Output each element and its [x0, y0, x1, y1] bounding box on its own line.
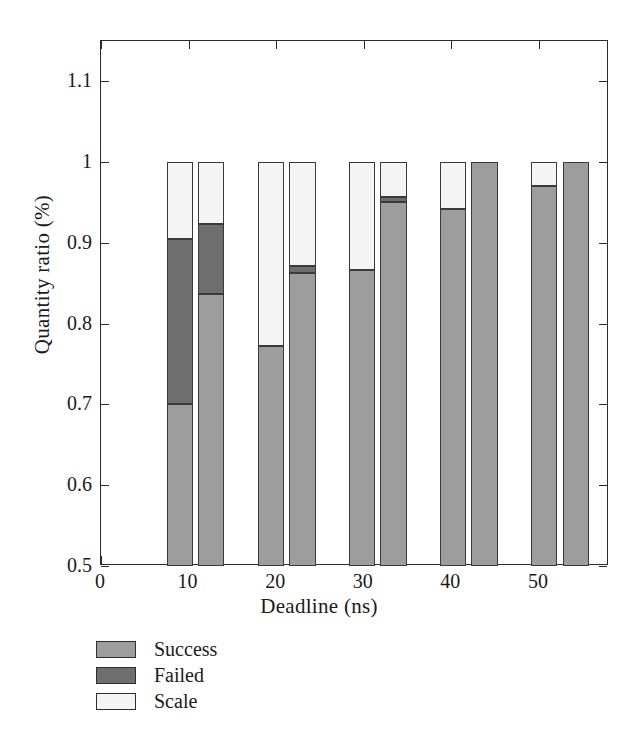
y-axis-title: Quantity ratio (%) — [30, 145, 55, 405]
bar-segment-failed — [380, 197, 406, 202]
legend-label-success: Success — [154, 639, 217, 659]
y-axis-tick-label: 0.7 — [30, 393, 92, 413]
x-axis-tick-label: 10 — [163, 571, 213, 591]
y-axis-tick — [101, 485, 109, 486]
chart-legend: SuccessFailedScale — [96, 636, 356, 714]
legend-swatch-success — [96, 641, 136, 658]
y-axis-tick-label: 0.8 — [30, 313, 92, 333]
bar-segment-success — [167, 404, 193, 566]
y-axis-tick-label: 1.1 — [30, 70, 92, 90]
bar-50-0 — [531, 41, 557, 566]
y-axis-tick — [101, 404, 109, 405]
x-axis-tick-label: 40 — [425, 571, 475, 591]
legend-label-scale: Scale — [154, 691, 197, 711]
x-axis-tick-label: 30 — [338, 571, 388, 591]
bar-segment-success — [349, 270, 375, 566]
bar-20-0 — [258, 41, 284, 566]
plot-area — [100, 40, 608, 565]
y-axis-tick-right — [599, 566, 607, 567]
bar-segment-failed — [167, 239, 193, 405]
x-axis-tick — [101, 556, 102, 564]
x-axis-tick-label: 20 — [250, 571, 300, 591]
x-axis-tick-label: 0 — [75, 571, 125, 591]
y-axis-tick — [101, 324, 109, 325]
bar-40-1 — [471, 41, 497, 566]
bar-segment-scale — [198, 162, 224, 223]
y-axis-tick — [101, 566, 109, 567]
legend-item-failed: Failed — [96, 662, 356, 688]
y-axis-tick-right — [599, 243, 607, 244]
bar-10-0 — [167, 41, 193, 566]
y-axis-tick-right — [599, 485, 607, 486]
x-axis-title: Deadline (ns) — [0, 594, 638, 619]
y-axis-tick-label: 0.9 — [30, 232, 92, 252]
legend-swatch-failed — [96, 667, 136, 684]
bar-segment-scale — [167, 162, 193, 239]
y-axis-tick-right — [599, 324, 607, 325]
bar-segment-success — [440, 209, 466, 566]
bar-30-0 — [349, 41, 375, 566]
bar-segment-success — [380, 202, 406, 566]
bar-segment-success — [258, 346, 284, 566]
bar-10-1 — [198, 41, 224, 566]
bar-segment-success — [471, 162, 497, 566]
x-axis-tick-top — [101, 41, 102, 49]
legend-swatch-scale — [96, 693, 136, 710]
x-axis-tick-label: 50 — [513, 571, 563, 591]
y-axis-tick-label: 1 — [30, 151, 92, 171]
bar-segment-failed — [289, 266, 315, 273]
bar-segment-scale — [380, 162, 406, 197]
bar-segment-success — [198, 294, 224, 566]
bar-30-1 — [380, 41, 406, 566]
legend-item-success: Success — [96, 636, 356, 662]
y-axis-tick-label: 0.6 — [30, 474, 92, 494]
bar-segment-success — [563, 162, 589, 566]
bar-segment-success — [531, 186, 557, 566]
y-axis-tick — [101, 162, 109, 163]
bar-segment-scale — [531, 162, 557, 185]
legend-label-failed: Failed — [154, 665, 204, 685]
bar-50-1 — [563, 41, 589, 566]
bar-segment-scale — [349, 162, 375, 270]
bar-segment-scale — [258, 162, 284, 346]
bar-segment-scale — [440, 162, 466, 209]
bar-segment-success — [289, 273, 315, 566]
y-axis-tick-right — [599, 81, 607, 82]
bar-20-1 — [289, 41, 315, 566]
y-axis-tick — [101, 243, 109, 244]
bar-40-0 — [440, 41, 466, 566]
figure: Quantity ratio (%) 0.50.60.70.80.911.1 0… — [0, 0, 638, 745]
legend-item-scale: Scale — [96, 688, 356, 714]
y-axis-tick-right — [599, 404, 607, 405]
y-axis-tick — [101, 81, 109, 82]
y-axis-tick-right — [599, 162, 607, 163]
bar-segment-failed — [198, 224, 224, 294]
bar-segment-scale — [289, 162, 315, 265]
